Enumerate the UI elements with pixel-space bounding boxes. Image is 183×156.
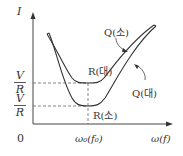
- x-axis-label: ω(f): [151, 133, 171, 144]
- r-small-label: R(소): [93, 110, 117, 121]
- q-small-label: Q(소): [104, 27, 129, 38]
- x-axis-arrow-icon: [166, 122, 173, 127]
- r-large-label: R(대): [88, 66, 112, 77]
- y-axis-label: I: [17, 6, 21, 17]
- q-large-label: Q(대): [132, 88, 157, 99]
- resonance-frequency-label: ω₀(f₀): [75, 133, 103, 144]
- q-large-arrow-icon: [134, 64, 139, 69]
- fraction-numerator: V: [16, 92, 24, 105]
- fraction-numerator: V: [16, 69, 24, 82]
- fraction-denominator: R: [16, 106, 24, 119]
- curve-left-tip: [47, 33, 49, 34]
- q-small-leader: [116, 38, 126, 51]
- origin-label: 0: [17, 133, 24, 144]
- lower-level-fraction: V R: [14, 93, 26, 118]
- curve-right-tip: [154, 25, 156, 26]
- y-axis-arrow-icon: [31, 12, 36, 19]
